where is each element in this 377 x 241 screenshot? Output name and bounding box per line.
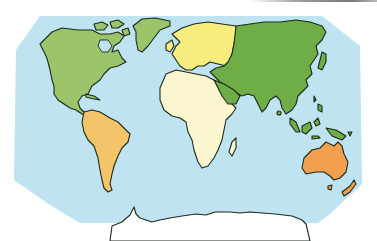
europe bbox=[172, 22, 236, 70]
sri-lanka bbox=[277, 111, 281, 115]
tasmania bbox=[328, 185, 332, 190]
world-map bbox=[0, 0, 377, 241]
